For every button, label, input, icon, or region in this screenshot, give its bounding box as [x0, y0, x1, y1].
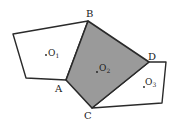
center-label-o1-sub: 1: [55, 52, 59, 59]
geometry-diagram: B A C D O1 O2 O3: [0, 0, 175, 122]
center-label-o3-sub: 3: [152, 81, 156, 88]
center-label-o3-main: O: [145, 77, 152, 87]
center-label-o2-sub: 2: [106, 67, 110, 74]
vertex-label-d: D: [148, 51, 156, 62]
vertex-label-a: A: [54, 83, 63, 94]
vertex-label-b: B: [86, 8, 93, 19]
vertex-label-c: C: [84, 110, 92, 121]
center-label-o2-main: O: [99, 63, 106, 73]
center-dot-o2: [96, 71, 98, 73]
center-dot-o1: [45, 54, 47, 56]
center-label-o1-main: O: [48, 48, 55, 58]
